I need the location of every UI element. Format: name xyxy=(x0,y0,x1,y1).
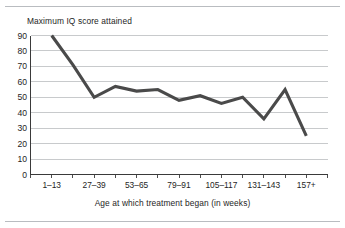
data-series-group xyxy=(52,36,307,136)
data-line-series xyxy=(52,36,307,136)
line-chart-plot: 0102030405060708090 1–1327–3953–6579–911… xyxy=(0,0,345,228)
y-tick-label: 90 xyxy=(17,31,27,41)
x-tick-label: 1–13 xyxy=(42,180,61,190)
y-tick-labels-group: 0102030405060708090 xyxy=(17,31,27,180)
x-tick-label: 157+ xyxy=(297,180,316,190)
gridlines-group xyxy=(31,36,328,175)
x-tick-label: 105–117 xyxy=(205,180,237,190)
y-tick-label: 50 xyxy=(17,92,27,102)
x-tick-label: 131–143 xyxy=(248,180,281,190)
y-tick-label: 30 xyxy=(17,123,27,133)
x-tick-labels-group: 1–1327–3953–6579–91105–117131–143157+ xyxy=(42,180,315,190)
y-tick-label: 40 xyxy=(17,108,27,118)
x-tick-label: 53–65 xyxy=(125,180,149,190)
y-tick-label: 20 xyxy=(17,139,27,149)
y-tick-label: 80 xyxy=(17,46,27,56)
y-tick-label: 70 xyxy=(17,61,27,71)
y-tick-label: 10 xyxy=(17,154,27,164)
figure-container: Maximum IQ score attained 01020304050607… xyxy=(0,0,345,228)
x-axis-group xyxy=(31,175,328,178)
y-tick-label: 60 xyxy=(17,77,27,87)
x-axis-title: Age at which treatment began (in weeks) xyxy=(0,198,345,208)
x-tick-label: 79–91 xyxy=(167,180,191,190)
x-tick-label: 27–39 xyxy=(82,180,106,190)
y-tick-label: 0 xyxy=(22,170,27,180)
